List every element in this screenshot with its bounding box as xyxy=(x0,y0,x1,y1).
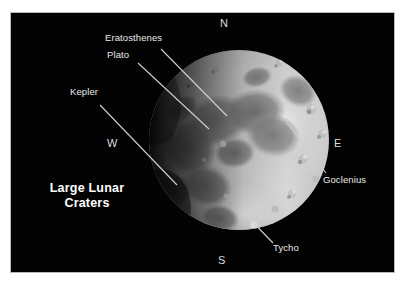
crater-label-tycho: Tycho xyxy=(273,242,299,253)
crater-label-plato: Plato xyxy=(107,49,129,60)
cardinal-label-east: E xyxy=(334,137,341,149)
lunar-craters-figure: Eratosthenes Plato Kepler Goclenius Tych… xyxy=(0,0,408,291)
figure-title-line-2: Craters xyxy=(27,196,147,211)
cardinal-label-west: W xyxy=(107,137,117,149)
figure-title-line-1: Large Lunar xyxy=(27,181,147,196)
crater-label-kepler: Kepler xyxy=(70,86,98,97)
cardinal-label-north: N xyxy=(220,17,228,29)
cardinal-label-south: S xyxy=(218,254,225,266)
figure-title: Large Lunar Craters xyxy=(27,181,147,211)
photo-frame: Eratosthenes Plato Kepler Goclenius Tych… xyxy=(10,12,395,273)
crater-label-goclenius: Goclenius xyxy=(323,174,366,185)
moon-photograph: Eratosthenes Plato Kepler Goclenius Tych… xyxy=(11,13,394,272)
crater-label-eratosthenes: Eratosthenes xyxy=(105,32,162,43)
